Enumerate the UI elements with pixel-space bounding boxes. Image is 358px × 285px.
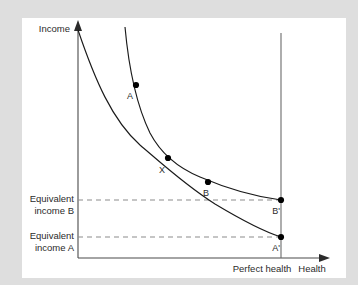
label-point-a: A — [127, 91, 133, 101]
equivalent-income-a-label-line1: Equivalent — [30, 230, 75, 241]
data-point-b — [205, 179, 211, 185]
x-axis-title: Health — [298, 263, 325, 274]
perfect-health-label: Perfect health — [233, 263, 292, 274]
y-axis-title: Income — [39, 23, 70, 34]
data-point-a — [133, 82, 139, 88]
y-axis-arrow-icon — [74, 20, 82, 31]
indifference-curve-b — [125, 27, 281, 200]
data-point-b-prime — [278, 197, 284, 203]
data-point-x — [165, 155, 171, 161]
indifference-curve-a — [78, 30, 281, 237]
equivalent-income-a-label-line2: income A — [35, 242, 75, 253]
label-point-x: X — [159, 165, 165, 175]
equivalent-income-b-label-line1: Equivalent — [30, 193, 75, 204]
data-point-a-prime — [278, 234, 284, 240]
chart-canvas: A X B B' A' Income Health Perfect health… — [0, 0, 358, 285]
figure-root: A X B B' A' Income Health Perfect health… — [0, 0, 358, 285]
label-point-b: B — [203, 188, 209, 198]
label-point-b-prime: B' — [272, 206, 280, 216]
label-point-a-prime: A' — [272, 243, 280, 253]
equivalent-income-b-label-line2: income B — [34, 205, 74, 216]
x-axis-arrow-icon — [319, 254, 330, 262]
